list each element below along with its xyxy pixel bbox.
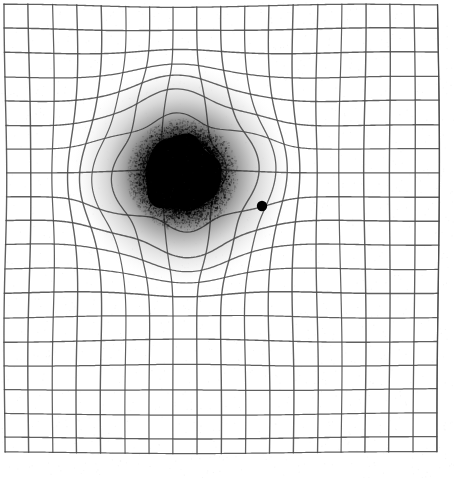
amsler-grid-canvas xyxy=(0,0,454,478)
amsler-grid-chart xyxy=(0,0,454,478)
